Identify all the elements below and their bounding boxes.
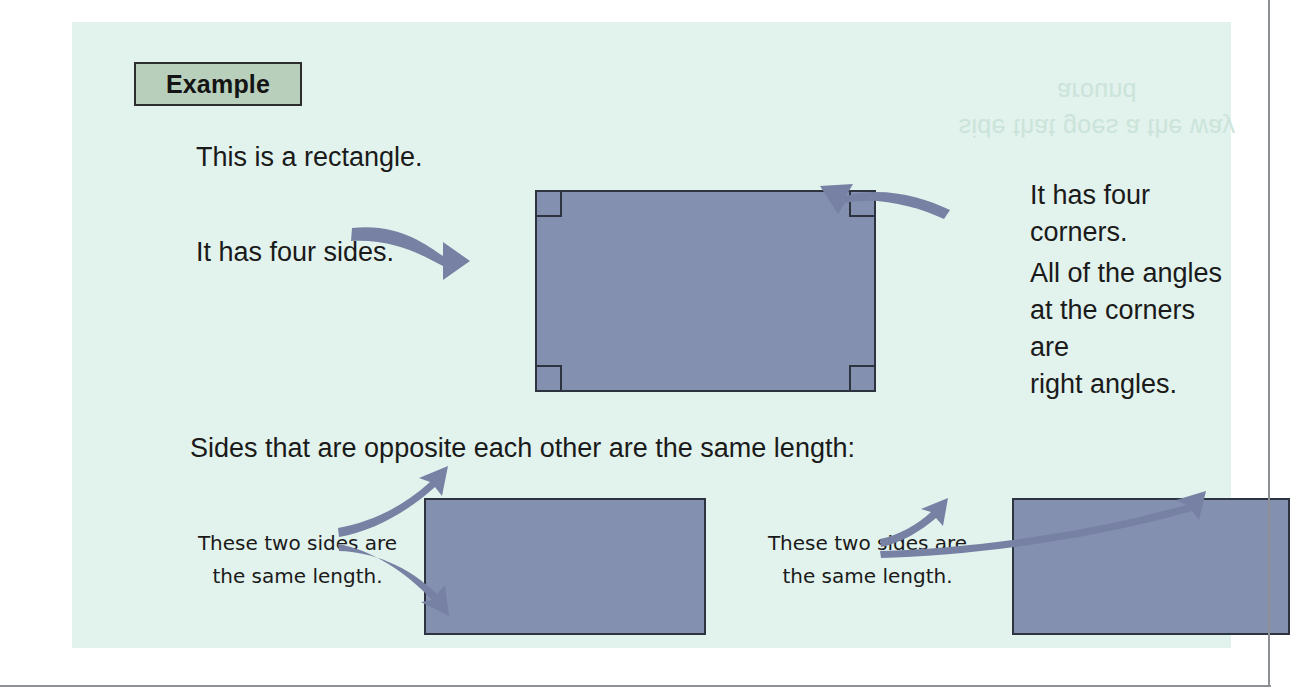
- example-panel: side that goes a the way around Example …: [72, 22, 1231, 648]
- rectangle-shape-horizontal-sides: [424, 498, 706, 635]
- page-bleed-through-text: side that goes a the way around: [927, 74, 1267, 146]
- intro-line-four-sides: It has four sides.: [196, 234, 394, 271]
- worksheet-page: side that goes a the way around Example …: [0, 0, 1304, 699]
- rectangle-shape-vertical-sides: [1012, 498, 1290, 635]
- main-rectangle-shape: [535, 190, 876, 392]
- opposite-sides-heading: Sides that are opposite each other are t…: [190, 430, 855, 467]
- right-angle-marker-top-left: [537, 192, 562, 217]
- note-right-angles: All of the angles at the corners are rig…: [1030, 255, 1231, 403]
- intro-line-rectangle: This is a rectangle.: [196, 139, 423, 176]
- page-bottom-rule: [0, 685, 1271, 687]
- example-badge: Example: [134, 62, 302, 106]
- note-four-corners: It has four corners.: [1030, 177, 1231, 251]
- caption-left-two-sides: These two sides are the same length.: [180, 527, 415, 593]
- page-right-rule: [1268, 0, 1270, 687]
- caption-right-two-sides: These two sides are the same length.: [750, 527, 985, 593]
- right-angle-marker-bottom-left: [537, 365, 562, 390]
- right-angle-marker-bottom-right: [849, 365, 874, 390]
- right-angle-marker-top-right: [849, 192, 874, 217]
